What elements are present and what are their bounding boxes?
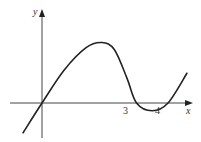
x-axis-label: x xyxy=(185,105,191,116)
x-tick-label-3: 3 xyxy=(123,105,128,116)
x-tick-label-4: 4 xyxy=(155,105,160,116)
function-curve xyxy=(23,42,187,132)
y-axis-arrow-icon xyxy=(39,9,45,17)
y-axis-label: y xyxy=(32,6,38,17)
graph-figure: y x 3 4 xyxy=(0,0,201,142)
